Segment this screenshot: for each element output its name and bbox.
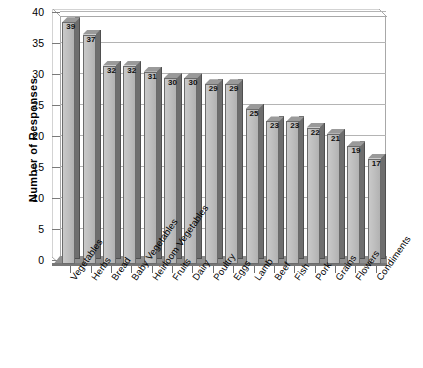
x-tick-label: Fish bbox=[292, 261, 312, 282]
bar[interactable] bbox=[225, 79, 243, 264]
bar-side-face bbox=[320, 123, 325, 259]
bar-side-face bbox=[197, 73, 202, 259]
y-tick-label: 5 bbox=[20, 224, 44, 235]
bar-value-label: 29 bbox=[226, 85, 241, 93]
bar-value-label: 22 bbox=[308, 129, 323, 137]
bar[interactable] bbox=[103, 61, 121, 264]
bar-value-label: 37 bbox=[84, 36, 99, 44]
bar-front-face bbox=[286, 121, 299, 264]
bar-value-label: 23 bbox=[267, 122, 282, 130]
bar-front-face bbox=[62, 22, 75, 264]
bar[interactable] bbox=[347, 141, 365, 264]
bar-value-label: 23 bbox=[287, 122, 302, 130]
gridline bbox=[60, 42, 386, 43]
bar[interactable] bbox=[246, 104, 264, 264]
bar-chart: Number of Responses 0510152025303540 393… bbox=[0, 0, 423, 368]
bar-value-label: 32 bbox=[104, 67, 119, 75]
bar-front-face bbox=[205, 84, 218, 264]
y-axis-tick bbox=[52, 43, 60, 44]
bar-value-label: 31 bbox=[145, 73, 160, 81]
y-tick-label: 20 bbox=[20, 131, 44, 142]
bar-value-label: 39 bbox=[63, 23, 78, 31]
bar-front-face bbox=[246, 109, 259, 264]
bar-front-face bbox=[103, 66, 116, 264]
bar[interactable] bbox=[286, 116, 304, 264]
bar[interactable] bbox=[327, 129, 345, 264]
y-axis-tick bbox=[52, 12, 60, 13]
bar-side-face bbox=[381, 154, 386, 259]
y-axis-tick bbox=[52, 74, 60, 75]
bar-side-face bbox=[238, 79, 243, 259]
bar-front-face bbox=[368, 159, 381, 264]
y-axis-tick bbox=[52, 136, 60, 137]
y-axis-tick bbox=[52, 198, 60, 199]
bar-front-face bbox=[225, 84, 238, 264]
bar-value-label: 30 bbox=[185, 79, 200, 87]
y-tick-label: 30 bbox=[20, 69, 44, 80]
bar-side-face bbox=[116, 61, 121, 259]
bar-value-label: 32 bbox=[124, 67, 139, 75]
bar[interactable] bbox=[83, 30, 101, 264]
bar[interactable] bbox=[123, 61, 141, 264]
y-tick-label: 25 bbox=[20, 100, 44, 111]
bar-side-face bbox=[340, 129, 345, 259]
bar-value-label: 30 bbox=[165, 79, 180, 87]
bar-front-face bbox=[123, 66, 136, 264]
bar-side-face bbox=[299, 116, 304, 259]
bar[interactable] bbox=[62, 17, 80, 264]
bar-front-face bbox=[327, 134, 340, 264]
bar-side-face bbox=[218, 79, 223, 259]
bar-front-face bbox=[83, 35, 96, 264]
bar-side-face bbox=[259, 104, 264, 259]
y-axis-tick bbox=[52, 260, 60, 261]
bar-front-face bbox=[266, 121, 279, 264]
bar-side-face bbox=[96, 30, 101, 259]
y-tick-label: 0 bbox=[20, 255, 44, 266]
bar-side-face bbox=[75, 17, 80, 259]
y-tick-label: 15 bbox=[20, 162, 44, 173]
y-axis-tick bbox=[52, 105, 60, 106]
bar-side-face bbox=[360, 141, 365, 259]
bar-value-label: 25 bbox=[247, 110, 262, 118]
y-tick-label: 35 bbox=[20, 38, 44, 49]
bar-value-label: 21 bbox=[328, 135, 343, 143]
bar-front-face bbox=[307, 128, 320, 264]
bar-side-face bbox=[279, 116, 284, 259]
bar[interactable] bbox=[205, 79, 223, 264]
y-axis-tick bbox=[52, 167, 60, 168]
bar-front-face bbox=[144, 72, 157, 264]
bar-front-face bbox=[347, 146, 360, 264]
y-axis-tick bbox=[52, 229, 60, 230]
bar-side-face bbox=[136, 61, 141, 259]
bar[interactable] bbox=[368, 154, 386, 264]
gridline bbox=[60, 11, 386, 12]
y-tick-label: 10 bbox=[20, 193, 44, 204]
bar-value-label: 19 bbox=[348, 147, 363, 155]
bar[interactable] bbox=[266, 116, 284, 264]
bar[interactable] bbox=[307, 123, 325, 264]
y-tick-label: 40 bbox=[20, 7, 44, 18]
bar-value-label: 29 bbox=[206, 85, 221, 93]
bar-value-label: 17 bbox=[369, 160, 384, 168]
